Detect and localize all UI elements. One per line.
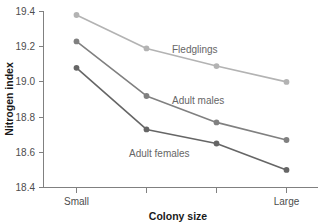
chart-figure: 19.4 19.2 19.0 18.8 18.6 18.4 Small Larg… <box>0 0 322 223</box>
data-point <box>214 119 220 125</box>
data-point <box>74 12 80 18</box>
y-axis-ticks <box>39 12 44 188</box>
y-tick-label-1: 19.2 <box>16 41 36 52</box>
data-point <box>284 79 290 85</box>
data-point <box>284 167 290 173</box>
data-point <box>74 65 80 71</box>
series-label-fledglings: Fledglings <box>172 44 218 55</box>
data-point <box>214 141 220 147</box>
y-tick-label-2: 19.0 <box>16 76 36 87</box>
y-tick-label-3: 18.8 <box>16 112 36 123</box>
y-tick-label-5: 18.4 <box>16 182 36 193</box>
y-axis-title: Nitrogen index <box>3 62 15 136</box>
series-line <box>77 41 287 140</box>
x-axis-ticks <box>77 188 287 194</box>
data-point <box>144 127 150 133</box>
x-axis-title: Colony size <box>149 210 208 222</box>
y-tick-label-4: 18.6 <box>16 147 36 158</box>
y-tick-label-0: 19.4 <box>16 6 36 17</box>
data-point <box>144 93 150 99</box>
data-point <box>144 46 150 52</box>
series-label-adult-females: Adult females <box>129 148 190 159</box>
x-tick-label-small: Small <box>64 196 89 207</box>
data-point <box>284 137 290 143</box>
data-point <box>214 63 220 69</box>
series-label-adult-males: Adult males <box>172 95 224 106</box>
data-point <box>74 39 80 45</box>
x-tick-label-large: Large <box>274 196 300 207</box>
line-chart: 19.4 19.2 19.0 18.8 18.6 18.4 Small Larg… <box>0 0 322 223</box>
